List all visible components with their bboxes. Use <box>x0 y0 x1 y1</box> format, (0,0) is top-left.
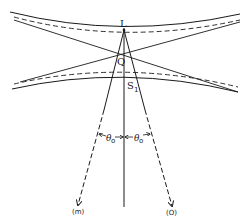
label-S: S <box>127 80 134 91</box>
lower-hyperbola-solid <box>12 77 238 92</box>
angle-marker-right <box>143 134 150 135</box>
label-ray-m: (m) <box>72 208 85 216</box>
angle-marker-left <box>99 134 106 136</box>
diagram-canvas: L Q S 1 θ o θ o (m) (O) <box>0 0 246 219</box>
label-L: L <box>120 18 127 29</box>
label-ray-o: (O) <box>166 209 177 217</box>
label-S-subscript: 1 <box>134 86 138 94</box>
ray-m-solid <box>104 30 124 110</box>
point-L-dot <box>123 29 126 32</box>
ray-o <box>145 110 172 206</box>
ray-m <box>78 110 104 205</box>
label-Q: Q <box>117 56 125 67</box>
upper-hyperbola-dashed <box>14 17 240 32</box>
ray-o-solid <box>124 30 145 110</box>
label-theta-right-subscript: o <box>139 137 143 145</box>
label-theta-left-subscript: o <box>111 137 115 145</box>
crossing-line-descending <box>14 20 238 92</box>
